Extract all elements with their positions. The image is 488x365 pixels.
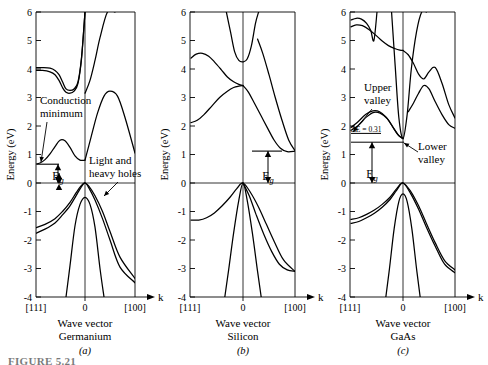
panel-material-label: Silicon bbox=[227, 330, 259, 342]
y-tick-label: 4 bbox=[27, 64, 32, 75]
y-tick-label: -2 bbox=[338, 235, 346, 246]
y-tick-label: 3 bbox=[341, 92, 346, 103]
y-tick-label: -4 bbox=[178, 292, 186, 303]
x-tick-label-100: [100] bbox=[124, 302, 146, 313]
band-cb-light-111-plateau bbox=[35, 12, 85, 93]
band-vb-light-hole bbox=[243, 183, 295, 271]
panel-gaas: 6543210-1-2-3-4[111]0[100]kEnergy (eV)Wa… bbox=[319, 7, 484, 357]
y-tick-label: 4 bbox=[341, 64, 346, 75]
y-tick-label: -3 bbox=[24, 263, 32, 274]
y-axis-title: Energy (eV) bbox=[5, 128, 17, 180]
x-axis-title: Wave vector bbox=[216, 317, 271, 329]
y-tick-label: 4 bbox=[181, 64, 186, 75]
y-tick-label: 2 bbox=[181, 121, 186, 132]
x-axis-arrowhead bbox=[467, 294, 475, 300]
band-cb-x-minimum bbox=[243, 86, 295, 152]
panel-material-label: GaAs bbox=[390, 330, 415, 342]
panel-material-label: Germanium bbox=[59, 330, 112, 342]
x-tick-label-0: 0 bbox=[401, 302, 406, 313]
y-tick-label: -3 bbox=[338, 263, 346, 274]
band-cb-gamma-valley bbox=[226, 12, 258, 62]
y-tick-label: 2 bbox=[27, 121, 32, 132]
y-tick-label: -4 bbox=[338, 292, 346, 303]
y-tick-label: 2 bbox=[341, 121, 346, 132]
panel-germanium: 6543210-1-2-3-4[111]0[100]kEnergy (eV)Wa… bbox=[5, 7, 164, 357]
ge-conduction-minimum-label-line2: minimum bbox=[40, 107, 83, 119]
y-tick-label: 1 bbox=[181, 149, 186, 160]
y-tick-label: 5 bbox=[341, 35, 346, 46]
y-tick-label: -3 bbox=[178, 263, 186, 274]
ge-conduction-minimum-arrow-line bbox=[41, 122, 47, 162]
y-tick-label: 0 bbox=[341, 178, 346, 189]
ge-eg-arrow-lower-head-up bbox=[56, 184, 62, 190]
y-tick-label: -2 bbox=[178, 235, 186, 246]
ge-conduction-minimum-label-line1: Conduction bbox=[40, 94, 92, 106]
x-axis-arrowhead bbox=[147, 294, 155, 300]
gaas-lower-valley-arrow-head bbox=[404, 143, 409, 148]
y-axis-title: Energy (eV) bbox=[319, 128, 331, 180]
y-tick-label: -1 bbox=[338, 206, 346, 217]
y-tick-label: 0 bbox=[27, 178, 32, 189]
y-tick-label: 1 bbox=[341, 149, 346, 160]
band-cb-gamma-upper-right bbox=[85, 91, 135, 160]
si-eg-arrow-head-up bbox=[265, 151, 271, 157]
k-axis-label: k bbox=[318, 291, 324, 303]
band-cb-111-hump bbox=[191, 53, 243, 85]
panel-silicon: 6543210-1-2-3-4[111]0[100]kEnergy (eV)Wa… bbox=[159, 7, 324, 357]
band-cb-gamma-lower-valley bbox=[392, 11, 427, 139]
y-tick-label: 6 bbox=[27, 7, 32, 18]
gaas-upper-valley-line2: valley bbox=[364, 94, 391, 106]
band-cb-right-wiggle-lower bbox=[408, 85, 455, 128]
y-tick-label: -2 bbox=[24, 235, 32, 246]
gaas-lower-valley-line1: Lower bbox=[418, 140, 447, 152]
gaas-upper-valley-line1: Upper bbox=[364, 81, 392, 93]
x-tick-label-100: [100] bbox=[284, 302, 306, 313]
y-tick-label: 3 bbox=[27, 92, 32, 103]
band-cb-heavy-111-plateau bbox=[35, 12, 85, 90]
x-tick-label-0: 0 bbox=[83, 302, 88, 313]
y-tick-label: -1 bbox=[178, 206, 186, 217]
x-axis-arrowhead bbox=[307, 294, 315, 300]
figure-canvas: 6543210-1-2-3-4[111]0[100]kEnergy (eV)Wa… bbox=[0, 0, 488, 365]
y-tick-label: 6 bbox=[341, 7, 346, 18]
band-cb-111-lower bbox=[191, 86, 243, 123]
band-cb-right-rise bbox=[85, 10, 115, 93]
x-axis-title: Wave vector bbox=[376, 317, 431, 329]
y-tick-label: -1 bbox=[24, 206, 32, 217]
x-tick-label-0: 0 bbox=[241, 302, 246, 313]
x-axis-title: Wave vector bbox=[58, 317, 113, 329]
x-tick-label-111: [111] bbox=[340, 302, 361, 313]
x-tick-label-111: [111] bbox=[26, 302, 47, 313]
y-axis-title: Energy (eV) bbox=[159, 128, 171, 180]
ge-light-heavy-holes-line1: Light and bbox=[89, 154, 132, 166]
band-cb-top-lower bbox=[351, 25, 403, 51]
figure-caption-clipped: FIGURE 5.21 bbox=[0, 356, 488, 365]
figure-caption-label: FIGURE 5.21 bbox=[8, 356, 488, 365]
k-axis-label: k bbox=[478, 291, 484, 303]
y-tick-label: 0 bbox=[181, 178, 186, 189]
x-tick-label-100: [100] bbox=[444, 302, 466, 313]
gaas-delta-e-label: ΔE = 0.31 bbox=[351, 125, 382, 134]
gaas-lower-valley-line2: valley bbox=[418, 153, 445, 165]
y-tick-label: 3 bbox=[181, 92, 186, 103]
band-structure-figure: 6543210-1-2-3-4[111]0[100]kEnergy (eV)Wa… bbox=[0, 0, 488, 365]
gaas-eg-arrow-head-up bbox=[369, 142, 375, 148]
y-tick-label: 5 bbox=[181, 35, 186, 46]
ge-light-heavy-holes-line2: heavy holes bbox=[89, 167, 141, 179]
x-tick-label-111: [111] bbox=[180, 302, 201, 313]
band-cb-upper-cross bbox=[258, 39, 295, 150]
y-tick-label: -4 bbox=[24, 292, 32, 303]
y-tick-label: 6 bbox=[181, 7, 186, 18]
k-axis-label: k bbox=[158, 291, 164, 303]
y-tick-label: 5 bbox=[27, 35, 32, 46]
y-tick-label: 1 bbox=[27, 149, 32, 160]
